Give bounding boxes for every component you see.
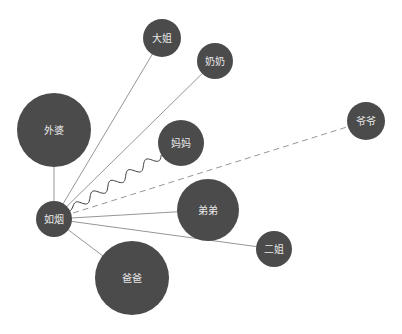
node-label: 如烟 xyxy=(44,213,64,225)
nodes-layer: 如烟外婆大姐奶奶妈妈爷爷弟弟二姐爸爸 xyxy=(17,19,385,315)
node-label: 弟弟 xyxy=(198,205,218,216)
node-label: 奶奶 xyxy=(205,56,225,67)
node-mama: 妈妈 xyxy=(158,120,204,166)
node-label: 大姐 xyxy=(152,32,172,44)
node-label: 爸爸 xyxy=(122,272,142,284)
node-didi: 弟弟 xyxy=(177,179,239,241)
node-label: 二姐 xyxy=(264,243,284,255)
node-label: 妈妈 xyxy=(171,137,191,149)
node-erjie: 二姐 xyxy=(256,231,292,267)
node-label: 爷爷 xyxy=(356,115,376,127)
edge-ruyan-mama-wavy xyxy=(63,155,161,214)
node-label: 外婆 xyxy=(44,125,64,136)
node-nainai: 奶奶 xyxy=(197,43,233,79)
node-yeye: 爷爷 xyxy=(347,102,385,140)
relationship-diagram: 如烟外婆大姐奶奶妈妈爷爷弟弟二姐爸爸 xyxy=(0,0,402,334)
node-ruyan: 如烟 xyxy=(36,201,72,237)
node-waipo: 外婆 xyxy=(17,93,91,167)
node-dajie: 大姐 xyxy=(143,19,181,57)
node-baba: 爸爸 xyxy=(95,241,169,315)
